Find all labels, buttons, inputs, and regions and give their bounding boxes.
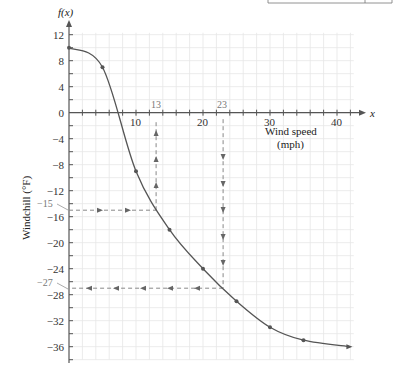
- arrow-down-icon: [221, 207, 226, 213]
- data-point: [134, 169, 138, 173]
- y-tick-label: −16: [47, 211, 65, 223]
- arrow-down-icon: [221, 181, 226, 187]
- data-point: [302, 338, 306, 342]
- data-point: [201, 267, 205, 271]
- arrow-up-icon: [154, 130, 159, 136]
- data-point: [101, 65, 105, 69]
- arrow-down-icon: [221, 260, 226, 266]
- y-axis-symbol: f(x): [58, 6, 74, 19]
- y-tick-label: −20: [47, 237, 65, 249]
- data-point: [67, 46, 71, 50]
- x-axis-arrow-icon: [359, 110, 366, 116]
- arrow-left-icon: [167, 286, 173, 291]
- y-tick-label: −4: [52, 133, 64, 145]
- arrow-up-icon: [154, 156, 159, 162]
- curve-end-arrow-icon: [346, 344, 352, 349]
- x-tick-label: 40: [331, 116, 343, 128]
- arrow-right-icon: [97, 208, 103, 213]
- y-axis-title: Windchill (°F): [20, 176, 33, 240]
- data-points: [67, 46, 352, 350]
- x-axis-title-line2: (mph): [277, 138, 304, 151]
- arrow-left-icon: [140, 286, 146, 291]
- y-tick-label: −12: [47, 185, 64, 197]
- y-tick-label: 4: [59, 81, 65, 93]
- arrow-left-icon: [194, 286, 200, 291]
- x-tick-label: 20: [197, 116, 209, 128]
- data-point: [235, 299, 239, 303]
- annotation-23: 23: [217, 99, 227, 110]
- annotation-minus-27: −27: [37, 277, 53, 288]
- annotation-minus-15-leader: [57, 204, 68, 210]
- grid: [69, 33, 354, 360]
- x-axis-title-line1: Wind speed: [265, 125, 317, 137]
- cropped-box-fragment: [268, 0, 392, 3]
- annotation-13: 13: [151, 99, 161, 110]
- arrow-down-icon: [221, 234, 226, 240]
- arrow-right-icon: [125, 208, 131, 213]
- y-tick-label: 8: [59, 55, 65, 67]
- arrow-up-icon: [154, 182, 159, 188]
- arrow-left-icon: [113, 286, 119, 291]
- arrow-down-icon: [221, 154, 226, 160]
- y-tick-label: −24: [47, 263, 65, 275]
- y-tick-label: 12: [53, 29, 64, 41]
- data-point: [168, 228, 172, 232]
- y-tick-label: −36: [47, 341, 65, 353]
- arrow-left-icon: [86, 286, 92, 291]
- y-axis-arrow-icon: [66, 20, 72, 27]
- x-tick-label: 10: [130, 116, 142, 128]
- windchill-curve: [69, 48, 350, 347]
- y-tick-label: −28: [47, 289, 65, 301]
- y-tick-label: −8: [52, 159, 64, 171]
- y-tick-label: −32: [47, 315, 64, 327]
- y-tick-label: 0: [59, 107, 65, 119]
- annotation-minus-15: −15: [37, 198, 53, 209]
- x-axis-symbol: x: [369, 107, 375, 119]
- dashed-guides: [69, 119, 226, 291]
- data-point: [268, 325, 272, 329]
- windchill-chart: 1020304012840−4−8−12−16−20−24−28−32−36 f…: [0, 0, 394, 386]
